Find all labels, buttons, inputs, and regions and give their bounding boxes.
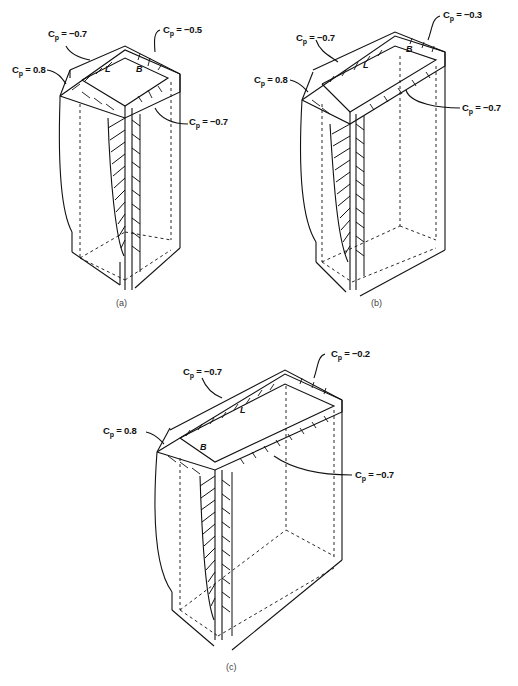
cp-subscript: p [110,431,114,438]
cp-symbol: C [331,348,338,359]
cp-symbol: C [48,28,55,39]
cp-symbol: C [183,366,190,377]
cp-value: = −0.3 [456,9,482,20]
panel-a-face-l: L [105,64,111,74]
cp-subscript: p [170,30,174,37]
panel-b-cp-leeward: Cp = −0.3 [443,9,482,22]
cp-subscript: p [303,38,307,45]
cp-value: = −0.2 [344,348,370,359]
cp-value: = −0.7 [196,366,222,377]
cp-subscript: p [55,34,59,41]
cp-subscript: p [19,70,23,77]
cp-subscript: p [450,15,454,22]
cp-value: = −0.7 [61,28,87,39]
panel-a-caption: (a) [116,298,127,308]
panel-c-face-l: L [240,405,246,415]
cp-value: = −0.7 [368,469,394,480]
cp-subscript: p [338,354,342,361]
panel-b-face-l: L [363,60,369,70]
panel-a-building [47,30,188,290]
cp-value: = −0.7 [475,102,501,113]
panel-c-caption: (c) [226,662,237,672]
panel-c-cp-windward: Cp = 0.8 [103,425,137,438]
cp-symbol: C [103,425,110,436]
panel-c-face-b: B [200,442,207,452]
cp-value: = 0.8 [25,64,45,75]
panel-b-cp-side-tl: Cp = −0.7 [296,32,335,45]
panel-b-cp-windward: Cp = 0.8 [254,74,288,87]
cp-subscript: p [190,372,194,379]
cp-value: = 0.8 [267,74,287,85]
panel-b-caption: (b) [371,298,382,308]
panel-b-cp-side-br: Cp = −0.7 [462,102,501,115]
cp-symbol: C [443,9,450,20]
cp-symbol: C [12,64,19,75]
panel-c-cp-leeward: Cp = −0.2 [331,348,370,361]
cp-subscript: p [362,475,366,482]
cp-symbol: C [462,102,469,113]
panel-c-cp-side-tl: Cp = −0.7 [183,366,222,379]
panel-a-cp-side-br: Cp = −0.7 [189,116,228,129]
panel-c-cp-side-br: Cp = −0.7 [355,469,394,482]
cp-symbol: C [296,32,303,43]
cp-value: = 0.8 [116,425,136,436]
building-pressure-diagram [0,0,518,686]
cp-symbol: C [189,116,196,127]
panel-a-cp-side-tl: Cp = −0.7 [48,28,87,41]
panel-b-building [290,16,460,296]
cp-symbol: C [254,74,261,85]
cp-symbol: C [163,24,170,35]
cp-value: = −0.5 [176,24,202,35]
cp-subscript: p [469,108,473,115]
cp-value: = −0.7 [309,32,335,43]
cp-subscript: p [261,80,265,87]
cp-symbol: C [355,469,362,480]
panel-a-face-b: B [136,64,143,74]
cp-subscript: p [196,122,200,129]
panel-a-cp-windward: Cp = 0.8 [12,64,46,77]
panel-a-cp-leeward: Cp = −0.5 [163,24,202,37]
panel-c-building [146,354,352,650]
panel-b-face-b: B [406,44,413,54]
cp-value: = −0.7 [202,116,228,127]
